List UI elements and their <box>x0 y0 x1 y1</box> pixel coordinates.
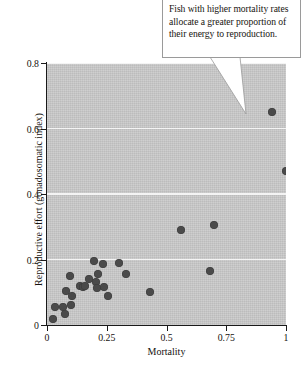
y-axis-line <box>46 62 47 326</box>
data-point <box>104 292 111 299</box>
x-tick-mark <box>226 326 227 331</box>
data-point <box>85 276 92 283</box>
data-point <box>101 284 108 291</box>
annotation-callout: Fish with higher mortality rates allocat… <box>162 0 301 58</box>
y-axis-label: Reproductive effort (gonadosomatic index… <box>33 80 44 320</box>
callout-pointer <box>196 56 256 116</box>
data-point <box>115 259 122 266</box>
data-point <box>67 302 74 309</box>
x-tick-label: 0.25 <box>87 332 127 343</box>
x-tick-mark <box>286 326 287 331</box>
x-tick-label: 0.5 <box>147 332 187 343</box>
x-tick-label: 0.75 <box>206 332 246 343</box>
x-tick-label: 0 <box>27 332 67 343</box>
data-point <box>283 168 287 175</box>
data-point <box>100 261 107 268</box>
gridline-y-0.2 <box>47 259 286 261</box>
data-point <box>52 303 59 310</box>
y-tick-label: 0.8 <box>0 58 39 69</box>
data-point <box>94 285 101 292</box>
data-point <box>82 283 89 290</box>
data-point <box>95 271 102 278</box>
gridline-y-0.4 <box>47 193 286 195</box>
y-tick-mark <box>41 63 46 64</box>
y-tick-label: 0 <box>0 320 39 331</box>
data-point <box>49 316 56 323</box>
y-tick-mark <box>41 325 46 326</box>
data-point <box>177 227 184 234</box>
data-point <box>206 267 213 274</box>
data-point <box>66 272 73 279</box>
data-point <box>61 310 68 317</box>
annotation-text: Fish with higher mortality rates allocat… <box>169 3 295 41</box>
data-point <box>211 222 218 229</box>
x-tick-mark <box>167 326 168 331</box>
x-tick-label: 1 <box>266 332 302 343</box>
x-axis-label: Mortality <box>47 346 286 357</box>
data-point <box>146 289 153 296</box>
data-point <box>90 258 97 265</box>
data-point <box>268 109 275 116</box>
x-tick-mark <box>47 326 48 331</box>
data-point <box>69 292 76 299</box>
scatter-plot-figure: 00.20.40.60.8 00.250.50.751 Reproductive… <box>0 0 302 368</box>
data-point <box>122 271 129 278</box>
x-tick-mark <box>107 326 108 331</box>
gridline-y-0.6 <box>47 128 286 130</box>
